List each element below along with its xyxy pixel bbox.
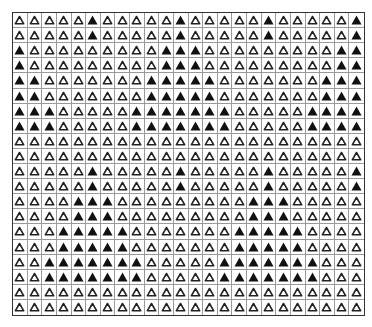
grid-cell xyxy=(145,224,160,239)
filled-triangle-icon xyxy=(263,30,274,40)
grid-cell xyxy=(115,58,130,73)
grid-cell xyxy=(203,285,218,300)
outlined-triangle-icon xyxy=(321,226,332,236)
grid-cell xyxy=(13,89,28,104)
grid-cell xyxy=(72,179,87,194)
outlined-triangle-icon xyxy=(73,15,84,25)
filled-triangle-icon xyxy=(336,121,347,131)
grid-cell xyxy=(218,104,233,119)
grid-cell xyxy=(203,224,218,239)
grid-cell xyxy=(42,43,57,58)
filled-triangle-icon xyxy=(58,257,69,267)
filled-triangle-icon xyxy=(248,242,259,252)
filled-triangle-icon xyxy=(58,226,69,236)
grid-cell xyxy=(130,285,145,300)
grid-cell xyxy=(115,134,130,149)
grid-cell xyxy=(13,240,28,255)
filled-triangle-icon xyxy=(175,60,186,70)
outlined-triangle-icon xyxy=(248,91,259,101)
grid-cell xyxy=(42,89,57,104)
outlined-triangle-icon xyxy=(219,302,230,312)
filled-triangle-icon xyxy=(263,15,274,25)
outlined-triangle-icon xyxy=(190,136,201,146)
outlined-triangle-icon xyxy=(351,226,362,236)
grid-cell xyxy=(291,149,306,164)
grid-cell xyxy=(13,179,28,194)
filled-triangle-icon xyxy=(263,257,274,267)
grid-cell xyxy=(335,270,350,285)
grid-cell xyxy=(101,58,116,73)
outlined-triangle-icon xyxy=(234,45,245,55)
outlined-triangle-icon xyxy=(351,272,362,282)
filled-triangle-icon xyxy=(161,45,172,55)
grid-cell xyxy=(218,194,233,209)
outlined-triangle-icon xyxy=(73,287,84,297)
outlined-triangle-icon xyxy=(161,181,172,191)
outlined-triangle-icon xyxy=(248,45,259,55)
grid-cell xyxy=(174,164,189,179)
filled-triangle-icon xyxy=(175,91,186,101)
outlined-triangle-icon xyxy=(292,75,303,85)
filled-triangle-icon xyxy=(204,121,215,131)
grid-cell xyxy=(72,194,87,209)
grid-cell xyxy=(174,194,189,209)
outlined-triangle-icon xyxy=(336,166,347,176)
grid-cell xyxy=(203,300,218,315)
outlined-triangle-icon xyxy=(307,181,318,191)
grid-cell xyxy=(335,285,350,300)
outlined-triangle-icon xyxy=(29,272,40,282)
outlined-triangle-icon xyxy=(204,302,215,312)
grid-cell xyxy=(262,270,277,285)
grid-cell xyxy=(335,224,350,239)
outlined-triangle-icon xyxy=(58,15,69,25)
grid-cell xyxy=(101,89,116,104)
grid-cell xyxy=(28,194,43,209)
grid-cell xyxy=(320,209,335,224)
grid-cell xyxy=(101,300,116,315)
outlined-triangle-icon xyxy=(58,106,69,116)
grid-cell xyxy=(262,134,277,149)
outlined-triangle-icon xyxy=(219,15,230,25)
grid-cell xyxy=(86,255,101,270)
outlined-triangle-icon xyxy=(73,302,84,312)
grid-cell xyxy=(306,164,321,179)
outlined-triangle-icon xyxy=(161,196,172,206)
grid-cell xyxy=(57,134,72,149)
grid-cell xyxy=(86,58,101,73)
grid-cell xyxy=(101,134,116,149)
grid-cell xyxy=(291,194,306,209)
filled-triangle-icon xyxy=(263,242,274,252)
outlined-triangle-icon xyxy=(44,242,55,252)
grid-cell xyxy=(42,73,57,88)
outlined-triangle-icon xyxy=(146,60,157,70)
grid-cell xyxy=(232,224,247,239)
grid-cell xyxy=(203,13,218,28)
filled-triangle-icon xyxy=(117,242,128,252)
grid-cell xyxy=(247,224,262,239)
outlined-triangle-icon xyxy=(248,136,259,146)
outlined-triangle-icon xyxy=(44,45,55,55)
grid-cell xyxy=(218,164,233,179)
grid-cell xyxy=(57,13,72,28)
grid-cell xyxy=(247,149,262,164)
grid-cell xyxy=(159,13,174,28)
filled-triangle-icon xyxy=(219,121,230,131)
outlined-triangle-icon xyxy=(219,136,230,146)
outlined-triangle-icon xyxy=(44,91,55,101)
grid-cell xyxy=(232,149,247,164)
grid-cell xyxy=(291,300,306,315)
grid-cell xyxy=(86,179,101,194)
outlined-triangle-icon xyxy=(73,91,84,101)
grid-cell xyxy=(57,194,72,209)
grid-cell xyxy=(276,164,291,179)
filled-triangle-icon xyxy=(73,196,84,206)
outlined-triangle-icon xyxy=(292,91,303,101)
grid-cell xyxy=(101,28,116,43)
grid-cell xyxy=(203,255,218,270)
outlined-triangle-icon xyxy=(278,75,289,85)
outlined-triangle-icon xyxy=(190,196,201,206)
outlined-triangle-icon xyxy=(29,226,40,236)
outlined-triangle-icon xyxy=(73,30,84,40)
outlined-triangle-icon xyxy=(248,121,259,131)
outlined-triangle-icon xyxy=(146,136,157,146)
